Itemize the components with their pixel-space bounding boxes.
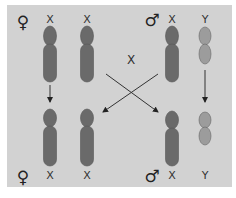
male-symbol-icon: ♂ bbox=[144, 12, 159, 29]
offspring-male-label-x: X bbox=[168, 170, 176, 181]
offspring-male-label-y: Y bbox=[202, 170, 209, 181]
offspring-female-x1-chromosome bbox=[44, 109, 57, 166]
offspring-male-y-chromosome bbox=[199, 112, 211, 145]
offspring-female-symbol-icon: ♀ bbox=[17, 169, 29, 186]
cross-label: X bbox=[127, 54, 135, 66]
parent-female-x1-chromosome bbox=[44, 26, 57, 82]
offspring-male-x-chromosome bbox=[166, 111, 179, 166]
parent-female-label-x2: X bbox=[83, 14, 91, 25]
offspring-female-label-x1: X bbox=[46, 170, 54, 181]
parent-male-y-chromosome bbox=[199, 27, 211, 64]
offspring-female-x2-chromosome bbox=[81, 109, 94, 166]
offspring-male-symbol-icon: ♂ bbox=[144, 168, 159, 185]
parent-male-label-x: X bbox=[168, 14, 176, 25]
parent-female-x2-chromosome bbox=[81, 26, 94, 82]
female-symbol-icon: ♀ bbox=[17, 14, 29, 31]
parent-female-label-x1: X bbox=[46, 14, 54, 25]
parent-male-label-y: Y bbox=[202, 14, 209, 25]
chromosome-diagram bbox=[0, 0, 236, 198]
offspring-female-label-x2: X bbox=[83, 170, 91, 181]
parent-male-x-chromosome bbox=[166, 26, 179, 82]
